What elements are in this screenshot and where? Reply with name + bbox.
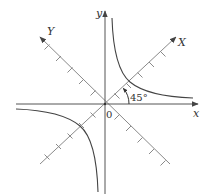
angle-label: 45° [130,92,148,103]
origin-point [104,103,106,105]
x-axis-label: x [193,107,200,120]
rotated-axes-hyperbola-figure: x y X Y 0 45° [0,0,218,194]
angle-arc [124,89,130,105]
diagram-canvas: x y X Y 0 45° [0,0,218,194]
origin-label: 0 [106,109,112,120]
y-axis-label: y [95,7,103,20]
Y-axis-label: Y [47,25,56,38]
X-axis-label: X [177,36,187,49]
